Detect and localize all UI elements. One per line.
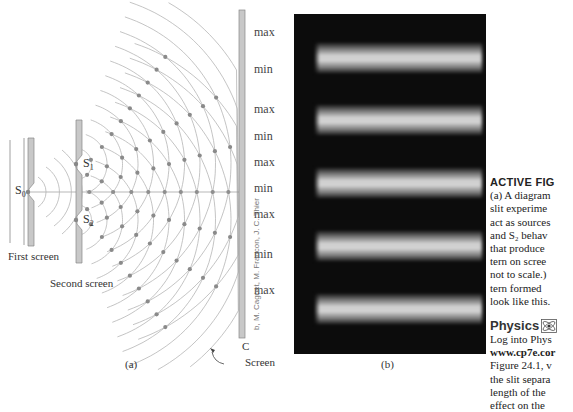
s1-point: [74, 162, 78, 166]
s0-label: S0: [15, 183, 26, 199]
fringe-label: max: [254, 25, 275, 40]
s1-label: S1: [83, 156, 94, 172]
atom-icon: [541, 319, 557, 333]
physics-label: Physics: [490, 319, 539, 332]
double-slit-diagram: [0, 0, 290, 371]
panel-a-caption: (a): [125, 358, 137, 370]
s0-subscript: 0: [22, 190, 26, 199]
bright-fringe: [314, 293, 484, 325]
url-link[interactable]: www.cp7e.cor: [490, 346, 573, 359]
interference-fringe-photo: [294, 14, 486, 354]
bright-fringe: [314, 104, 484, 136]
screen-label: Screen: [245, 356, 275, 368]
fringe-label: max: [254, 155, 275, 170]
bright-fringe: [314, 42, 484, 74]
figure-caption-sidebar: ACTIVE FIG (a) A diagram slit experime a…: [490, 176, 573, 412]
first-screen-label: First screen: [8, 250, 59, 262]
caption-line: tern on scree: [490, 255, 573, 268]
caption-line: act as sources: [490, 216, 573, 229]
bright-fringe: [314, 167, 484, 199]
s0-letter: S: [15, 183, 22, 197]
fringe-label: max: [254, 102, 275, 117]
s0-point: [26, 190, 30, 194]
s1-letter: S: [83, 156, 90, 170]
arrowhead-icon: [210, 348, 215, 353]
s2-point: [74, 218, 78, 222]
active-figure-title: ACTIVE FIG: [490, 176, 573, 189]
wavefront-lines: [81, 2, 239, 369]
caption-line: and S₂ behav: [490, 229, 573, 242]
fringe-label: min: [254, 62, 273, 77]
s1-subscript: 1: [90, 163, 94, 172]
viewing-screen: [239, 10, 245, 338]
body-line: Figure 24.1, v: [490, 359, 573, 372]
screen-c-label: C: [242, 340, 249, 352]
second-screen-label: Second screen: [50, 277, 113, 289]
fringe-label: min: [254, 129, 273, 144]
body-line: length of the: [490, 386, 573, 399]
fringe-label: min: [254, 181, 273, 196]
second-screen: [76, 120, 82, 263]
caption-line: slit experime: [490, 202, 573, 215]
caption-line: that produce: [490, 242, 573, 255]
body-line: effect on the: [490, 399, 573, 412]
caption-line: tern formed: [490, 282, 573, 295]
body-line: Log into Phys: [490, 333, 573, 346]
s2-letter: S: [83, 212, 90, 226]
screen-arrow: [212, 352, 224, 364]
caption-line: not to scale.): [490, 268, 573, 281]
panel-b-caption: (b): [381, 358, 394, 370]
caption-line: (a) A diagram: [490, 189, 573, 202]
photo-credit: b, M. Cagnet, M. Francon, J. C. Thier: [252, 198, 261, 330]
s2-label: S2: [83, 212, 94, 228]
physics-now-heading: Physics: [490, 319, 573, 333]
bright-fringe: [314, 230, 484, 262]
caption-line: look like this.: [490, 295, 573, 308]
s2-subscript: 2: [90, 219, 94, 228]
body-line: the slit separa: [490, 373, 573, 386]
